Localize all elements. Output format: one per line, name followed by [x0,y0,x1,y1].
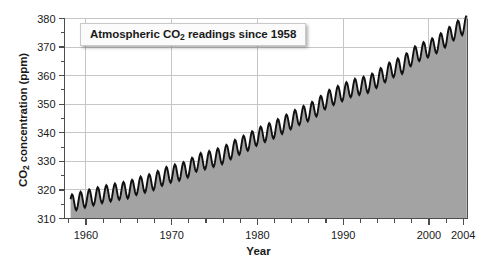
co2-chart: 310320330340350360370380 196019701980199… [0,0,483,266]
chart-title-box: Atmospheric CO2 readings since 1958 [80,23,306,46]
y-axis-title: CO2 concentration (ppm) [15,20,31,220]
y-tick-label: 340 [37,127,55,139]
x-tick-label: 1970 [159,229,183,241]
y-tick-label: 360 [37,70,55,82]
x-tick-label: 1980 [245,229,269,241]
x-tick-label: 1990 [331,229,355,241]
chart-title-suffix: readings since 1958 [185,28,297,40]
x-tick-label: 2004 [451,229,475,241]
y-axis-title-suffix: concentration (ppm) [17,53,29,165]
x-axis-tick-labels: 196019701980199020002004 [74,229,476,241]
y-axis-title-prefix: CO [17,170,29,187]
x-axis-title-text: Year [246,245,270,257]
y-tick-label: 370 [37,41,55,53]
y-tick-label: 320 [37,184,55,196]
x-tick-label: 1960 [74,229,98,241]
y-tick-label: 380 [37,13,55,25]
y-axis-tick-labels: 310320330340350360370380 [37,13,55,225]
x-tick-label: 2000 [417,229,441,241]
chart-title-prefix: Atmospheric CO [90,28,180,40]
y-axis-title-sub: 2 [21,165,31,170]
y-tick-label: 330 [37,155,55,167]
x-axis-title: Year [0,245,483,257]
y-tick-label: 350 [37,98,55,110]
chart-title-sub: 2 [180,32,185,42]
y-tick-label: 310 [37,213,55,225]
